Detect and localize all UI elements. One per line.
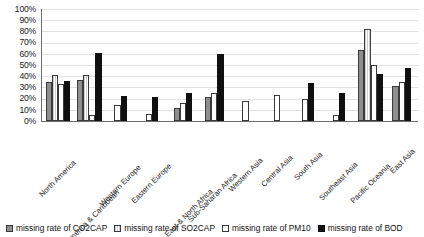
x-axis: North AmericaLatin America & CaribbeanWe… (42, 123, 417, 213)
y-axis-tick-label: 60% (19, 50, 36, 59)
bar-group (199, 9, 230, 121)
legend-label: missing rate of SO2CAP (124, 224, 215, 233)
x-axis-tick: North America (42, 123, 73, 209)
x-axis-tick: Pacific Oceania (355, 123, 386, 209)
bar[interactable] (64, 81, 70, 121)
x-axis-tick: East Asia (386, 123, 417, 209)
legend-item[interactable]: missing rate of CO2CAP (6, 224, 107, 233)
x-axis-tick: Latin America & Caribbean (74, 123, 105, 209)
x-axis-tick-label: Western Asia (227, 157, 264, 194)
x-axis-tick-label: Central Asia (260, 154, 295, 189)
y-axis-tick-label: 70% (19, 38, 36, 47)
y-axis-tick-label: 30% (19, 83, 36, 92)
y-axis-tick-label: 10% (19, 106, 36, 115)
x-axis-tick: Middle East & North Africa (167, 123, 198, 209)
series-0-swatch (6, 225, 13, 232)
y-axis: 100%90%80%70%60%50%40%30%20%10%0% (0, 0, 39, 131)
bar-group (136, 9, 167, 121)
bar[interactable] (83, 75, 89, 121)
legend-item[interactable]: missing rate of BOD (318, 224, 403, 233)
y-axis-tick-label: 0% (24, 117, 36, 126)
bar[interactable] (186, 93, 192, 121)
x-axis-tick-label: North America (38, 159, 78, 199)
legend-item[interactable]: missing rate of SO2CAP (114, 224, 215, 233)
bar[interactable] (339, 93, 345, 121)
x-axis-tick-label: East Asia (389, 147, 417, 175)
y-axis-tick-label: 80% (19, 27, 36, 36)
y-axis-tick-label: 90% (19, 16, 36, 25)
bar-group (292, 9, 323, 121)
series-1-swatch (114, 225, 121, 232)
bar-group (324, 9, 355, 121)
bar-group (261, 9, 292, 121)
x-axis-tick: Sub-Saharan Africa (199, 123, 230, 209)
bar[interactable] (377, 74, 383, 121)
bar[interactable] (405, 68, 411, 121)
bar-group (42, 9, 73, 121)
bar-group (105, 9, 136, 121)
legend-item[interactable]: missing rate of PM10 (222, 224, 311, 233)
y-axis-tick-label: 40% (19, 72, 36, 81)
y-axis-tick-label: 50% (19, 61, 36, 70)
chart-legend: missing rate of CO2CAPmissing rate of SO… (6, 222, 422, 235)
y-axis-tick-label: 20% (19, 94, 36, 103)
legend-label: missing rate of CO2CAP (16, 224, 107, 233)
bar[interactable] (274, 95, 280, 121)
bar[interactable] (121, 96, 127, 121)
bar-group (167, 9, 198, 121)
y-axis-tick-label: 100% (15, 5, 36, 14)
bar-series-container (42, 9, 417, 121)
x-axis-tick-label: South Asia (293, 151, 324, 182)
bar-group (230, 9, 261, 121)
x-axis-tick: Eastern Europe (136, 123, 167, 209)
x-axis-tick: Central Asia (261, 123, 292, 209)
bar-group (74, 9, 105, 121)
bar[interactable] (152, 97, 158, 121)
series-2-swatch (222, 225, 229, 232)
legend-label: missing rate of BOD (328, 224, 403, 233)
bar[interactable] (95, 53, 101, 121)
bar-group (386, 9, 417, 121)
series-3-swatch (318, 225, 325, 232)
bar[interactable] (217, 54, 223, 121)
bar-chart: 100%90%80%70%60%50%40%30%20%10%0% North … (0, 0, 424, 237)
legend-label: missing rate of PM10 (232, 224, 311, 233)
bar-group (355, 9, 386, 121)
bar[interactable] (242, 101, 248, 121)
x-axis-tick: Western Asia (230, 123, 261, 209)
bar[interactable] (308, 83, 314, 121)
